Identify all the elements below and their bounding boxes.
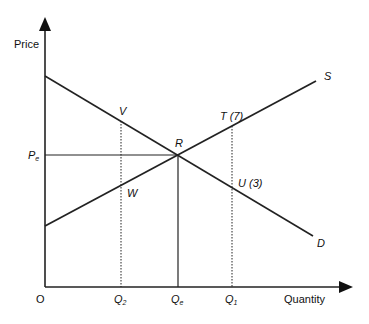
point-w-label: W (127, 187, 139, 199)
x-axis-arrow-icon (339, 281, 353, 293)
demand-label: D (317, 237, 325, 249)
qe-label: Qe (171, 293, 184, 306)
y-axis-label: Price (14, 38, 39, 50)
supply-demand-diagram: Price Quantity O S D Pe Q2 Qe Q1 R V W T… (0, 0, 369, 324)
q2-label: Q2 (114, 293, 127, 306)
point-u-label: U (3) (238, 177, 263, 189)
supply-label: S (324, 70, 332, 82)
origin-label: O (36, 293, 45, 305)
demand-curve (45, 76, 313, 236)
y-axis-arrow-icon (39, 17, 51, 31)
q1-label: Q1 (225, 293, 238, 306)
point-t-label: T (7) (220, 110, 244, 122)
point-r-label: R (175, 137, 183, 149)
pe-label: Pe (28, 149, 39, 162)
supply-curve (45, 81, 316, 226)
point-v-label: V (119, 105, 128, 117)
x-axis-label: Quantity (284, 293, 325, 305)
